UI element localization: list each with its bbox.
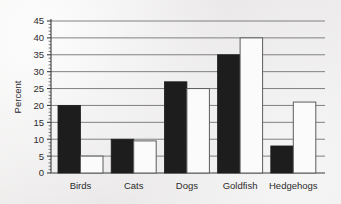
bar-dogs-series-1-dark (164, 82, 187, 173)
y-tick-label-5: 5 (39, 151, 44, 162)
bar-goldfish-series-2-light (240, 38, 263, 173)
y-tick-label-35: 35 (33, 49, 44, 60)
y-tick-label-40: 40 (33, 32, 44, 43)
x-axis-label-goldfish: Goldfish (223, 180, 258, 191)
bar-birds-series-1-dark (58, 105, 81, 173)
chart-canvas: 051015202530354045 BirdsCatsDogsGoldfish… (0, 0, 341, 204)
x-axis-label-hedgehogs: Hedgehogs (269, 180, 318, 191)
y-tick-label-15: 15 (33, 117, 44, 128)
y-tick-label-30: 30 (33, 66, 44, 77)
y-axis-ticks-group: 051015202530354045 (33, 15, 51, 178)
y-tick-label-10: 10 (33, 134, 44, 145)
bar-hedgehogs-series-1-dark (271, 146, 294, 173)
bar-cats-series-1-dark (111, 139, 134, 173)
x-axis-label-dogs: Dogs (176, 180, 198, 191)
y-tick-label-20: 20 (33, 100, 44, 111)
bar-chart-figure: 051015202530354045 BirdsCatsDogsGoldfish… (0, 0, 341, 204)
y-tick-label-0: 0 (39, 167, 44, 178)
bar-hedgehogs-series-2-light (293, 102, 316, 173)
x-axis-category-labels-group: BirdsCatsDogsGoldfishHedgehogs (70, 180, 318, 191)
bar-goldfish-series-1-dark (218, 55, 241, 173)
bar-dogs-series-2-light (187, 89, 210, 173)
y-axis-label: Percent (12, 80, 23, 113)
x-axis-label-cats: Cats (124, 180, 144, 191)
y-tick-label-25: 25 (33, 83, 44, 94)
y-tick-label-45: 45 (33, 15, 44, 26)
bar-cats-series-2-light (134, 141, 157, 173)
x-axis-label-birds: Birds (70, 180, 92, 191)
bar-birds-series-2-light (81, 156, 104, 173)
